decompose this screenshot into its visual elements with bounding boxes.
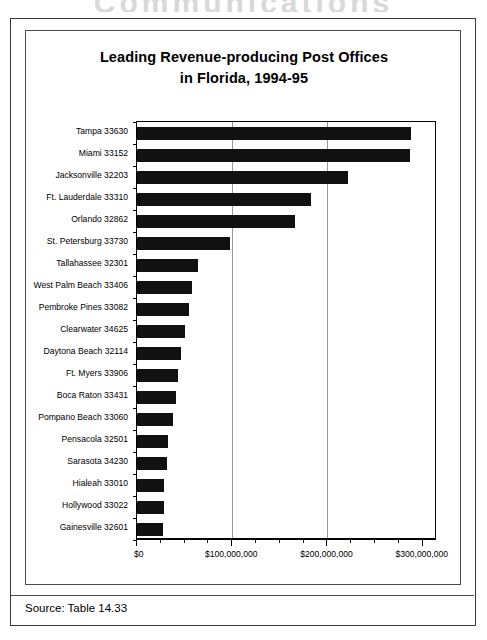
category-tick [133, 188, 137, 189]
axis-tick-minor [279, 539, 280, 543]
category-label: Clearwater 34625 [24, 325, 128, 334]
category-tick [133, 144, 137, 145]
category-label: Pensacola 32501 [24, 435, 128, 444]
axis-tick-major [136, 539, 137, 546]
axis-line [136, 539, 436, 540]
bar [137, 501, 164, 514]
axis-tick-minor [398, 539, 399, 543]
chart-title-line1: Leading Revenue-producing Post Offices [26, 47, 462, 68]
category-tick [133, 254, 137, 255]
source-divider [11, 595, 474, 596]
category-tick [133, 452, 137, 453]
category-label: Ft. Lauderdale 33310 [24, 193, 128, 202]
value-axis: $0$100,000,000$200,000,000$300,000,000 [136, 539, 436, 579]
category-tick [133, 320, 137, 321]
gridline [327, 122, 328, 538]
axis-tick-minor [184, 539, 185, 543]
page-border: Leading Revenue-producing Post Offices i… [10, 18, 476, 626]
category-tick [133, 386, 137, 387]
category-label: St. Petersburg 33730 [24, 237, 128, 246]
bar [137, 325, 185, 338]
category-label: Orlando 32862 [24, 215, 128, 224]
category-tick [133, 276, 137, 277]
bar [137, 413, 173, 426]
category-label: Boca Raton 33431 [24, 391, 128, 400]
bar [137, 523, 163, 536]
axis-tick-minor [160, 539, 161, 543]
bar [137, 237, 230, 250]
category-label: Daytona Beach 32114 [24, 347, 128, 356]
bar [137, 259, 198, 272]
category-tick [133, 518, 137, 519]
bar [137, 479, 164, 492]
axis-tick-label: $300,000,000 [395, 549, 448, 559]
plot-area [136, 121, 436, 539]
bar [137, 193, 311, 206]
category-label: Pembroke Pines 33082 [24, 303, 128, 312]
category-tick [133, 342, 137, 343]
page-heading: Communications [0, 0, 487, 12]
bar [137, 391, 176, 404]
category-tick [133, 166, 137, 167]
axis-tick-major [326, 539, 327, 546]
bar [137, 369, 178, 382]
category-label: Sarasota 34230 [24, 457, 128, 466]
axis-tick-minor [374, 539, 375, 543]
axis-tick-minor [207, 539, 208, 543]
axis-tick-minor [303, 539, 304, 543]
bar [137, 127, 411, 140]
gridline [232, 122, 233, 538]
chart-title-line2: in Florida, 1994-95 [26, 68, 462, 89]
axis-tick-major [422, 539, 423, 546]
bar [137, 215, 295, 228]
bar [137, 457, 167, 470]
bar [137, 347, 181, 360]
category-label: Ft. Myers 33906 [24, 369, 128, 378]
category-tick [133, 364, 137, 365]
bar [137, 303, 189, 316]
axis-tick-major [231, 539, 232, 546]
category-label: Jacksonville 32203 [24, 171, 128, 180]
category-tick [133, 122, 137, 123]
figure-box: Leading Revenue-producing Post Offices i… [25, 30, 461, 585]
category-tick [133, 430, 137, 431]
bar [137, 171, 348, 184]
category-label: Hialeah 33010 [24, 479, 128, 488]
axis-tick-minor [350, 539, 351, 543]
category-axis-labels: Tampa 33630Miami 33152Jacksonville 32203… [26, 121, 132, 539]
axis-tick-minor [255, 539, 256, 543]
category-label: Hollywood 33022 [24, 501, 128, 510]
category-tick [133, 298, 137, 299]
axis-tick-label: $100,000,000 [205, 549, 258, 559]
source-note: Source: Table 14.33 [25, 602, 127, 614]
category-tick [133, 210, 137, 211]
category-tick [133, 408, 137, 409]
category-tick [133, 232, 137, 233]
axis-tick-label: $200,000,000 [300, 549, 353, 559]
category-tick [133, 474, 137, 475]
axis-tick-label: $0 [134, 549, 144, 559]
category-label: Miami 33152 [24, 149, 128, 158]
category-label: Pompano Beach 33060 [24, 413, 128, 422]
plot-wrapper: Tampa 33630Miami 33152Jacksonville 32203… [26, 121, 462, 561]
bar [137, 281, 192, 294]
bar [137, 149, 410, 162]
bar [137, 435, 168, 448]
category-label: Tampa 33630 [24, 127, 128, 136]
page-root: Communications Leading Revenue-producing… [0, 0, 487, 640]
chart-title: Leading Revenue-producing Post Offices i… [26, 47, 462, 88]
category-label: Gainesville 32601 [24, 523, 128, 532]
category-label: West Palm Beach 33406 [24, 281, 128, 290]
category-label: Tallahassee 32301 [24, 259, 128, 268]
category-tick [133, 496, 137, 497]
